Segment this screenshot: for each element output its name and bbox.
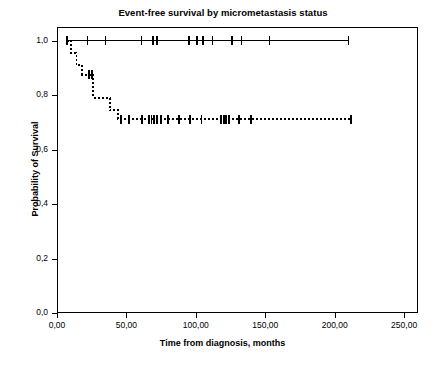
x-tick-label: 0,00 xyxy=(32,320,82,330)
x-tick-label: 50,00 xyxy=(101,320,151,330)
y-axis-title: Probability of Survival xyxy=(30,79,40,259)
x-tick-mark xyxy=(196,313,197,318)
x-tick-label: 150,00 xyxy=(240,320,290,330)
x-tick-mark xyxy=(57,313,58,318)
y-tick-mark xyxy=(52,95,57,96)
y-tick-label: 0,6 xyxy=(10,144,48,154)
survival-chart-figure: Event-free survival by micrometastasis s… xyxy=(0,0,446,366)
y-tick-label: 0,4 xyxy=(10,198,48,208)
x-axis-title: Time from diagnosis, months xyxy=(57,338,388,348)
y-tick-mark xyxy=(52,41,57,42)
y-tick-label: 0,8 xyxy=(10,89,48,99)
x-tick-mark xyxy=(265,313,266,318)
x-tick-label: 250,00 xyxy=(379,320,429,330)
y-tick-mark xyxy=(52,150,57,151)
x-tick-mark xyxy=(404,313,405,318)
y-tick-label: 0,2 xyxy=(10,253,48,263)
survival-curve-positive xyxy=(67,41,352,119)
x-tick-mark xyxy=(335,313,336,318)
x-tick-label: 100,00 xyxy=(171,320,221,330)
y-tick-mark xyxy=(52,204,57,205)
chart-title: Event-free survival by micrometastasis s… xyxy=(0,7,446,18)
censor-marks-positive xyxy=(89,70,351,123)
x-tick-label: 200,00 xyxy=(310,320,360,330)
y-tick-mark xyxy=(52,259,57,260)
plot-area xyxy=(57,27,418,313)
y-tick-label: 1,0 xyxy=(10,35,48,45)
x-tick-mark xyxy=(126,313,127,318)
y-tick-label: 0,0 xyxy=(10,307,48,317)
